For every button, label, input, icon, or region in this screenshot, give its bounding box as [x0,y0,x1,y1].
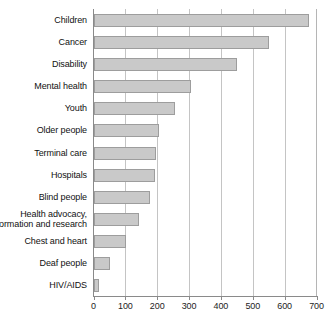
category-label: Cancer [59,37,87,47]
category-label-line: Chest and heart [24,236,87,246]
bar [94,124,159,137]
category-label: Youth [65,103,87,113]
category-label: Blind people [39,192,87,202]
bar [94,80,191,93]
x-tick-mark-100 [125,296,126,300]
category-label: HIV/AIDS [49,280,87,290]
gridline-200 [157,9,158,297]
category-label-line: Terminal care [34,148,87,158]
category-label-line: Mental health [34,81,87,91]
category-label: Older people [37,125,87,135]
category-label: Hospitals [51,170,87,180]
x-tick-label-100: 100 [118,301,133,311]
bar [94,36,269,49]
category-label: Mental health [34,81,87,91]
x-axis-line [93,296,317,297]
category-label: Chest and heart [24,236,87,246]
bar [94,147,156,160]
gridline-300 [189,9,190,297]
category-label-line: Blind people [39,192,87,202]
category-label-line: Health advocacy, [0,209,87,219]
bar [94,257,110,270]
x-tick-label-500: 500 [245,301,260,311]
plot-right-border [316,9,317,297]
category-label-line: information and research [0,219,87,229]
category-label-line: Children [54,15,87,25]
category-label: Children [54,15,87,25]
x-tick-mark-700 [317,296,318,300]
x-tick-label-0: 0 [91,301,96,311]
x-tick-mark-500 [253,296,254,300]
category-label-line: Disability [52,59,87,69]
category-label-line: Hospitals [51,170,87,180]
category-label: Health advocacy,information and research [0,209,87,229]
category-label-line: Cancer [59,37,87,47]
x-tick-mark-0 [94,296,95,300]
gridline-500 [253,9,254,297]
x-tick-mark-400 [221,296,222,300]
horizontal-bar-chart: ChildrenCancerDisabilityMental healthYou… [0,0,326,319]
category-label-line: Deaf people [40,258,87,268]
x-tick-label-400: 400 [214,301,229,311]
bar [94,213,139,226]
category-label-line: Older people [37,125,87,135]
category-label-line: Youth [65,103,87,113]
bar [94,235,126,248]
bar [94,191,150,204]
x-tick-label-700: 700 [309,301,324,311]
x-tick-mark-300 [189,296,190,300]
bar [94,169,155,182]
x-tick-mark-200 [157,296,158,300]
gridline-400 [221,9,222,297]
gridline-600 [285,9,286,297]
bar [94,58,237,71]
category-label: Deaf people [40,258,87,268]
category-label: Disability [52,59,87,69]
x-tick-label-300: 300 [182,301,197,311]
bar [94,14,309,27]
category-label: Terminal care [34,148,87,158]
x-tick-label-600: 600 [277,301,292,311]
x-tick-mark-600 [285,296,286,300]
bar [94,102,175,115]
bar [94,279,99,292]
x-tick-label-200: 200 [150,301,165,311]
category-label-line: HIV/AIDS [49,280,87,290]
